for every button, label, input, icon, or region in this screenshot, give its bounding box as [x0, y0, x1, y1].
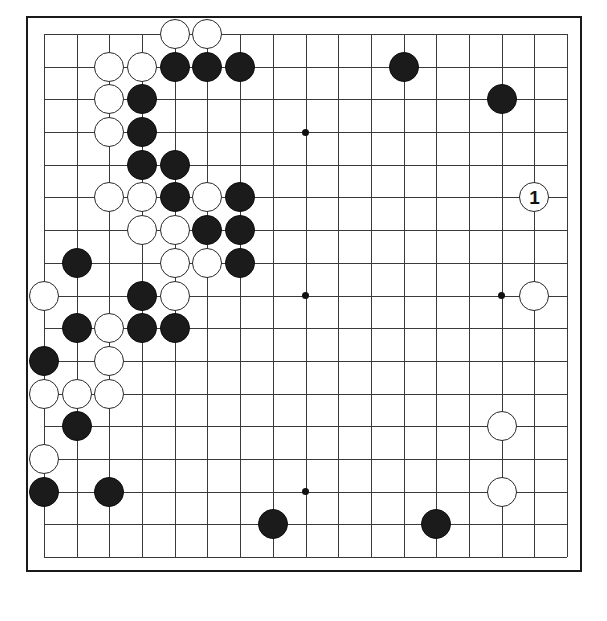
stone-black[interactable] [160, 313, 190, 343]
stone-white[interactable] [192, 248, 222, 278]
stone-white[interactable] [94, 84, 124, 114]
star-point [498, 292, 505, 299]
stone-black[interactable] [94, 477, 124, 507]
grid-line-vertical [567, 34, 568, 557]
stone-white[interactable] [94, 346, 124, 376]
stone-black[interactable] [127, 84, 157, 114]
stone-white[interactable] [29, 379, 59, 409]
stone-white[interactable] [519, 281, 549, 311]
stone-black[interactable] [127, 117, 157, 147]
stone-black[interactable] [225, 215, 255, 245]
star-point [302, 129, 309, 136]
grid-line-vertical [207, 34, 208, 557]
move-number-label: 1 [520, 183, 548, 211]
stone-black[interactable] [127, 313, 157, 343]
stone-white[interactable]: 1 [519, 182, 549, 212]
stone-black[interactable] [389, 52, 419, 82]
stone-black[interactable] [62, 411, 92, 441]
stone-black[interactable] [160, 182, 190, 212]
stone-white[interactable] [94, 313, 124, 343]
stone-white[interactable] [160, 19, 190, 49]
board-frame: 1 [26, 16, 582, 572]
star-point [302, 488, 309, 495]
stone-white[interactable] [127, 215, 157, 245]
grid-line-vertical [371, 34, 372, 557]
stone-black[interactable] [62, 313, 92, 343]
stone-black[interactable] [127, 281, 157, 311]
stone-black[interactable] [127, 150, 157, 180]
grid-line-vertical [338, 34, 339, 557]
stone-white[interactable] [62, 379, 92, 409]
stone-black[interactable] [225, 52, 255, 82]
stone-white[interactable] [94, 52, 124, 82]
stone-black[interactable] [225, 248, 255, 278]
stone-white[interactable] [94, 117, 124, 147]
grid-line-vertical [469, 34, 470, 557]
stone-white[interactable] [160, 281, 190, 311]
stone-white[interactable] [160, 248, 190, 278]
grid-line-vertical [436, 34, 437, 557]
grid-line-vertical [77, 34, 78, 557]
stone-black[interactable] [225, 182, 255, 212]
stone-black[interactable] [421, 509, 451, 539]
stone-black[interactable] [192, 52, 222, 82]
stone-white[interactable] [94, 182, 124, 212]
grid-line-vertical [240, 34, 241, 557]
stone-white[interactable] [94, 379, 124, 409]
stone-white[interactable] [29, 444, 59, 474]
grid-line-horizontal [44, 557, 567, 558]
stone-white[interactable] [29, 281, 59, 311]
star-point [302, 292, 309, 299]
stone-black[interactable] [160, 150, 190, 180]
stone-black[interactable] [29, 346, 59, 376]
go-board-diagram: 1 [0, 0, 607, 621]
stone-white[interactable] [192, 182, 222, 212]
stone-white[interactable] [192, 19, 222, 49]
stone-white[interactable] [487, 477, 517, 507]
stone-white[interactable] [127, 52, 157, 82]
stone-black[interactable] [62, 248, 92, 278]
stone-black[interactable] [258, 509, 288, 539]
stone-black[interactable] [160, 52, 190, 82]
stone-white[interactable] [487, 411, 517, 441]
stone-black[interactable] [29, 477, 59, 507]
stone-black[interactable] [487, 84, 517, 114]
stone-white[interactable] [160, 215, 190, 245]
grid-line-vertical [404, 34, 405, 557]
stone-white[interactable] [127, 182, 157, 212]
grid-line-vertical [273, 34, 274, 557]
stone-black[interactable] [192, 215, 222, 245]
